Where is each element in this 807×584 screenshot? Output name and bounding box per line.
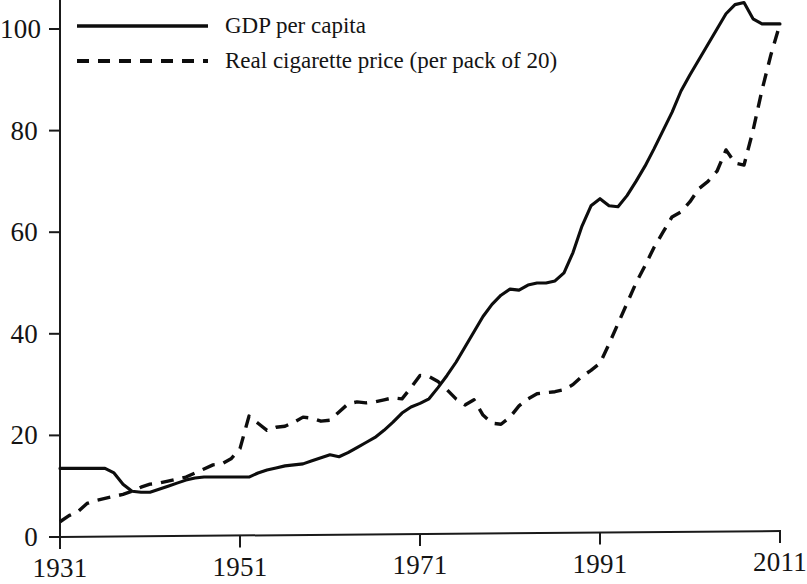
y-axis-tick-label: 80 <box>0 115 38 146</box>
legend-label-2: Real cigarette price (per pack of 20) <box>225 48 557 74</box>
y-axis-tick-label: 0 <box>0 522 38 553</box>
x-axis-tick-label: 1971 <box>393 550 448 581</box>
x-axis-tick-label: 1951 <box>213 552 268 583</box>
x-axis-tick-label: 1991 <box>573 549 628 580</box>
series-line-1 <box>60 3 780 493</box>
y-axis-tick-label: 20 <box>0 420 38 451</box>
y-axis-tick-label: 100 <box>0 14 38 45</box>
y-axis-tick-label: 60 <box>0 217 38 248</box>
axes <box>60 0 780 537</box>
y-axis-tick-label: 40 <box>0 318 38 349</box>
legend-label-1: GDP per capita <box>225 13 366 39</box>
x-axis-tick-label: 2011 <box>753 547 807 578</box>
y-axis-ticks <box>49 29 60 537</box>
x-axis-tick-label: 1931 <box>33 553 88 584</box>
legend-swatches <box>77 26 208 61</box>
series-line-2 <box>60 24 780 522</box>
series-layer <box>60 3 780 522</box>
